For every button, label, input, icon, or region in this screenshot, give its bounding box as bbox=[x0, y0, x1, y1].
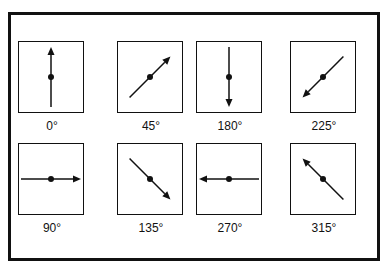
arrow-315-icon bbox=[291, 144, 355, 214]
arrow-180-icon bbox=[197, 42, 261, 112]
panel-135: 135° bbox=[117, 143, 189, 235]
panel-180: 180° bbox=[196, 41, 268, 133]
angle-label: 270° bbox=[196, 221, 264, 235]
direction-box bbox=[290, 143, 356, 215]
angle-label: 0° bbox=[18, 119, 86, 133]
direction-box bbox=[196, 143, 262, 215]
panel-270: 270° bbox=[196, 143, 268, 235]
direction-box bbox=[18, 41, 84, 113]
arrow-90-icon bbox=[19, 144, 83, 214]
angle-label: 90° bbox=[18, 221, 86, 235]
angle-label: 135° bbox=[117, 221, 185, 235]
direction-box bbox=[117, 143, 183, 215]
angle-label: 315° bbox=[290, 221, 358, 235]
direction-box bbox=[196, 41, 262, 113]
direction-box bbox=[117, 41, 183, 113]
direction-box bbox=[18, 143, 84, 215]
panel-0: 0° bbox=[18, 41, 90, 133]
angle-label: 225° bbox=[290, 119, 358, 133]
arrow-135-icon bbox=[118, 144, 182, 214]
arrow-225-icon bbox=[291, 42, 355, 112]
angle-label: 180° bbox=[196, 119, 264, 133]
arrow-0-icon bbox=[19, 42, 83, 112]
direction-box bbox=[290, 41, 356, 113]
panel-90: 90° bbox=[18, 143, 90, 235]
arrow-45-icon bbox=[118, 42, 182, 112]
arrow-270-icon bbox=[197, 144, 261, 214]
panel-315: 315° bbox=[290, 143, 362, 235]
angle-label: 45° bbox=[117, 119, 185, 133]
panel-225: 225° bbox=[290, 41, 362, 133]
panel-45: 45° bbox=[117, 41, 189, 133]
